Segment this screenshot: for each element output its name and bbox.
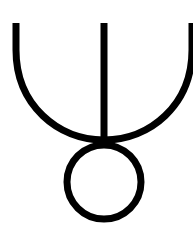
- fork-over-circle-symbol-icon: [0, 0, 193, 248]
- bottom-circle: [67, 145, 141, 219]
